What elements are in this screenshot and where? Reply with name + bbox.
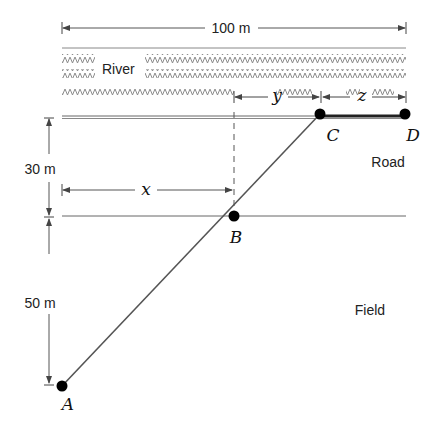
point-d-label: D xyxy=(405,125,420,145)
point-c-label: C xyxy=(326,125,339,145)
point-a-label: A xyxy=(60,394,74,414)
x-dimension: x xyxy=(62,179,232,199)
field-label: Field xyxy=(355,302,385,318)
width-label: 100 m xyxy=(212,20,251,36)
x-variable-label: x xyxy=(141,179,151,199)
dim-50m-label: 50 m xyxy=(24,295,55,311)
river-label: River xyxy=(102,61,135,77)
width-dimension: 100 m xyxy=(62,20,406,36)
point-d xyxy=(400,109,411,120)
path-a-to-c xyxy=(62,114,320,386)
river-road-field-diagram: 100 m River y z x xyxy=(0,0,431,423)
point-b xyxy=(229,211,240,222)
z-variable-label: z xyxy=(357,85,368,105)
point-a xyxy=(57,381,68,392)
point-c xyxy=(315,109,326,120)
point-b-label: B xyxy=(229,227,243,247)
y-variable-label: y xyxy=(271,85,282,105)
dim-30m-label: 30 m xyxy=(24,161,55,177)
river: River xyxy=(62,48,406,97)
vertical-dimensions: 30 m 50 m xyxy=(24,118,55,385)
road-label: Road xyxy=(371,154,404,170)
